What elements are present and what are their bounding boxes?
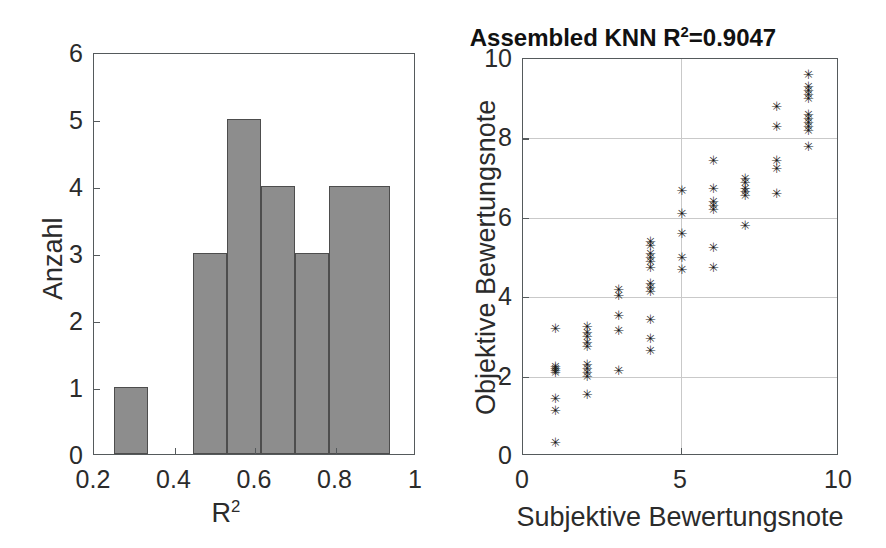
histogram-y-tick: 0 — [69, 443, 83, 468]
scatter-x-tick: 10 — [824, 467, 852, 492]
scatter-point — [708, 201, 717, 210]
scatter-point — [645, 346, 654, 355]
scatter-point — [613, 285, 622, 294]
histogram-x-tick: 1 — [408, 467, 422, 492]
histogram-bar — [227, 119, 261, 454]
scatter-y-tick-mark — [523, 138, 529, 139]
histogram-panel: 0123456 0.20.40.60.81 Anzahl R2 — [0, 0, 443, 548]
scatter-point — [550, 324, 559, 333]
histogram-y-tick-mark — [94, 255, 100, 256]
scatter-gridline-horizontal — [523, 218, 837, 219]
scatter-point — [803, 82, 812, 91]
scatter-chart-title-tail: =0.9047 — [689, 24, 776, 51]
scatter-point — [582, 342, 591, 351]
histogram-x-axis-title-base: R — [212, 498, 232, 528]
scatter-point — [582, 338, 591, 347]
scatter-gridline-horizontal — [523, 138, 837, 139]
scatter-point — [803, 70, 812, 79]
scatter-point — [582, 364, 591, 373]
scatter-chart-title-exponent: 2 — [681, 24, 689, 40]
histogram-bar — [261, 186, 295, 454]
scatter-point — [582, 360, 591, 369]
scatter-point — [803, 86, 812, 95]
scatter-point — [708, 197, 717, 206]
scatter-chart-title: Assembled KNN R2=0.9047 — [470, 26, 776, 50]
histogram-y-tick: 4 — [69, 175, 83, 200]
scatter-point — [740, 221, 749, 230]
scatter-plot-area — [523, 59, 837, 454]
histogram-y-tick-mark — [94, 389, 100, 390]
histogram-y-tick-mark — [94, 121, 100, 122]
scatter-point — [645, 315, 654, 324]
scatter-point — [803, 114, 812, 123]
scatter-point — [803, 142, 812, 151]
scatter-x-tick-mark — [681, 448, 682, 454]
scatter-point — [645, 257, 654, 266]
scatter-y-tick: 10 — [484, 46, 512, 71]
scatter-point — [645, 279, 654, 288]
scatter-point — [771, 102, 780, 111]
scatter-point — [708, 243, 717, 252]
scatter-y-tick-mark — [523, 297, 529, 298]
scatter-point — [771, 164, 780, 173]
histogram-axes — [93, 53, 415, 455]
scatter-point — [708, 205, 717, 214]
scatter-panel: Assembled KNN R2=0.9047 0246810 0510 Obj… — [443, 0, 886, 548]
scatter-point — [645, 249, 654, 258]
scatter-point — [740, 178, 749, 187]
scatter-point — [740, 184, 749, 193]
scatter-x-axis-title: Subjektive Bewertungsnote — [516, 504, 843, 531]
scatter-point — [645, 287, 654, 296]
scatter-point — [582, 328, 591, 337]
histogram-x-tick: 0.8 — [317, 467, 352, 492]
scatter-point — [582, 390, 591, 399]
scatter-point — [708, 156, 717, 165]
histogram-y-tick: 1 — [69, 376, 83, 401]
scatter-point — [613, 311, 622, 320]
scatter-point — [771, 189, 780, 198]
scatter-point — [550, 406, 559, 415]
scatter-y-tick: 0 — [498, 443, 512, 468]
scatter-point — [803, 126, 812, 135]
scatter-point — [645, 334, 654, 343]
scatter-point — [708, 184, 717, 193]
histogram-y-tick: 6 — [69, 41, 83, 66]
scatter-x-tick: 0 — [515, 467, 529, 492]
scatter-gridline-horizontal — [523, 297, 837, 298]
scatter-point — [550, 394, 559, 403]
scatter-point — [803, 94, 812, 103]
scatter-point — [550, 362, 559, 371]
scatter-point — [645, 283, 654, 292]
scatter-point — [645, 237, 654, 246]
scatter-point — [550, 438, 559, 447]
histogram-bar — [114, 387, 148, 454]
scatter-y-tick-mark — [523, 377, 529, 378]
scatter-point — [613, 291, 622, 300]
histogram-y-tick: 5 — [69, 108, 83, 133]
histogram-y-tick-mark — [94, 188, 100, 189]
histogram-y-axis-title: Anzahl — [40, 217, 67, 300]
scatter-point — [582, 332, 591, 341]
scatter-point — [803, 110, 812, 119]
scatter-point — [740, 191, 749, 200]
figure-root: 0123456 0.20.40.60.81 Anzahl R2 Assemble… — [0, 0, 886, 548]
histogram-x-axis-title-exponent: 2 — [231, 497, 240, 516]
scatter-point — [613, 366, 622, 375]
histogram-x-tick-mark — [255, 448, 256, 454]
histogram-x-tick-mark — [336, 448, 337, 454]
scatter-axes — [522, 58, 838, 455]
scatter-y-tick-mark — [523, 218, 529, 219]
histogram-x-tick: 0.4 — [156, 467, 191, 492]
histogram-bar — [193, 253, 227, 454]
scatter-point — [740, 187, 749, 196]
scatter-x-tick: 5 — [673, 467, 687, 492]
scatter-point — [645, 241, 654, 250]
scatter-point — [645, 263, 654, 272]
histogram-y-tick: 2 — [69, 309, 83, 334]
scatter-gridline-vertical — [681, 59, 682, 454]
histogram-plot-area — [94, 54, 414, 454]
histogram-x-tick: 0.6 — [237, 467, 272, 492]
scatter-gridline-horizontal — [523, 377, 837, 378]
scatter-point — [803, 118, 812, 127]
scatter-point — [645, 253, 654, 262]
